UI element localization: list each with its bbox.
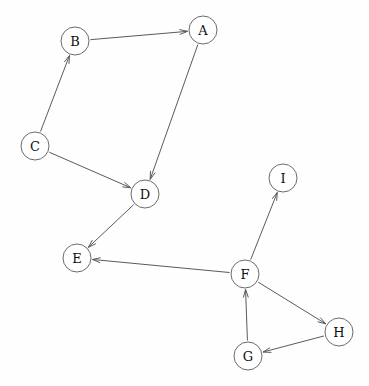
- node-label: E: [72, 251, 82, 266]
- graph-diagram: ABCDEFGHI: [0, 0, 369, 386]
- edge-line: [92, 259, 229, 272]
- edge-line: [263, 336, 324, 352]
- edge-line: [150, 45, 198, 180]
- edge-c-to-d: [49, 152, 131, 188]
- graph-node-f[interactable]: F: [231, 260, 259, 288]
- edge-line: [90, 31, 187, 39]
- edge-g-to-f: [243, 289, 248, 340]
- graph-node-d[interactable]: D: [131, 180, 159, 208]
- edge-f-to-h: [258, 282, 326, 324]
- edge-b-to-a: [90, 30, 187, 40]
- node-label: G: [243, 349, 253, 364]
- edge-f-to-e: [92, 258, 229, 273]
- graph-node-c[interactable]: C: [21, 132, 49, 160]
- node-label: B: [70, 34, 80, 49]
- graph-node-a[interactable]: A: [189, 16, 217, 44]
- edge-f-to-i: [251, 192, 278, 259]
- edge-line: [251, 192, 278, 259]
- node-label: D: [140, 187, 150, 202]
- graph-node-e[interactable]: E: [63, 244, 91, 272]
- edge-line: [49, 152, 131, 188]
- edge-h-to-g: [263, 336, 324, 352]
- graph-node-h[interactable]: H: [325, 318, 353, 346]
- edge-c-to-b: [41, 55, 70, 131]
- edge-line: [258, 282, 326, 324]
- edge-d-to-e: [88, 205, 133, 248]
- edge-line: [88, 205, 133, 248]
- node-label: F: [240, 267, 249, 282]
- node-label: H: [333, 325, 344, 340]
- edge-a-to-d: [150, 45, 198, 180]
- node-label: C: [30, 139, 40, 154]
- graph-node-g[interactable]: G: [234, 342, 262, 370]
- edge-line: [246, 289, 248, 340]
- graph-node-b[interactable]: B: [61, 27, 89, 55]
- node-label: A: [197, 23, 208, 38]
- graph-node-i[interactable]: I: [269, 164, 297, 192]
- arrowhead-icon: [318, 318, 326, 324]
- edge-line: [41, 55, 70, 131]
- graph-svg-canvas: ABCDEFGHI: [0, 0, 369, 386]
- node-label: I: [280, 171, 285, 186]
- nodes-layer: ABCDEFGHI: [21, 16, 353, 370]
